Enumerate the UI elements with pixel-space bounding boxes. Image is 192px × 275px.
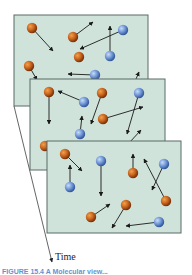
orange-particle: [44, 87, 54, 97]
blue-particle: [118, 25, 128, 35]
frame-snapshot-3: [47, 141, 181, 233]
orange-particle: [68, 32, 78, 42]
blue-particle: [105, 51, 115, 61]
orange-particle: [24, 61, 34, 71]
figure-caption: FIGURE 15.4 A Molecular view...: [2, 268, 108, 275]
orange-particle: [161, 196, 171, 206]
blue-particle: [96, 156, 106, 166]
orange-particle: [98, 114, 108, 124]
time-axis-label: Time: [55, 251, 76, 262]
orange-particle: [60, 149, 70, 159]
orange-particle: [86, 212, 96, 222]
blue-particle: [75, 129, 85, 139]
orange-particle: [97, 88, 107, 98]
blue-particle: [159, 159, 169, 169]
orange-particle: [74, 52, 84, 62]
blue-particle: [154, 217, 164, 227]
orange-particle: [121, 200, 131, 210]
blue-particle: [79, 97, 89, 107]
orange-particle: [27, 23, 37, 33]
blue-particle: [134, 88, 144, 98]
snapshot-frames: [14, 15, 181, 233]
orange-particle: [128, 168, 138, 178]
blue-particle: [65, 182, 75, 192]
